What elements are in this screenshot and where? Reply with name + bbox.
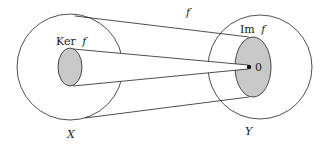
kernel-set-ker-f <box>58 48 82 86</box>
map-label-f: f <box>185 6 192 19</box>
kernel-label-f: f <box>81 35 88 48</box>
kernel-label: Ker f <box>56 35 88 48</box>
diagram-canvas: f Ker f Im f 0 X Y <box>0 0 319 148</box>
image-label-f: f <box>260 23 267 36</box>
image-label: Im f <box>240 23 267 36</box>
zero-point <box>247 65 251 69</box>
zero-label: 0 <box>255 61 262 74</box>
kernel-mapping-cone <box>73 49 248 86</box>
mapping-line-top <box>75 16 249 37</box>
codomain-label-y: Y <box>245 125 254 138</box>
mapping-line-bottom <box>85 97 249 118</box>
mapping-diagram: f Ker f Im f 0 X Y <box>0 0 319 148</box>
kernel-label-ker: Ker <box>56 35 76 48</box>
image-label-im: Im <box>240 23 255 36</box>
domain-label-x: X <box>66 128 76 141</box>
